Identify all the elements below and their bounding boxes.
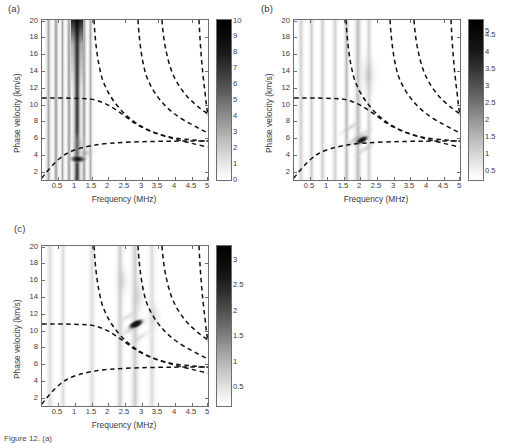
x-tick-label: 2	[105, 181, 109, 190]
panel-a-heatmap	[42, 20, 208, 180]
tick	[327, 177, 328, 180]
tick	[427, 177, 428, 180]
tick	[377, 20, 378, 23]
colorbar-tick-label: 4	[485, 47, 489, 56]
panel-c-heatmap	[42, 246, 208, 406]
tick	[92, 20, 93, 23]
x-tick-label: 2	[105, 407, 109, 416]
tick	[457, 37, 460, 38]
panel-a-colorbar	[216, 19, 232, 181]
y-tick-label: 10	[24, 100, 38, 109]
colorbar-tick-label: 3	[485, 81, 489, 90]
y-tick-label: 4	[24, 376, 38, 385]
colorbar-tick-label: 7	[233, 63, 237, 72]
x-tick-label: 4.5	[438, 181, 449, 190]
tick	[294, 121, 297, 122]
colorbar-tick-label: 2	[233, 306, 237, 315]
panel-c: (c)	[0, 220, 253, 441]
y-tick-label: 8	[24, 116, 38, 125]
tick	[42, 37, 45, 38]
panel-b-y-axis-title: Phase velocity (km/s)	[264, 73, 274, 153]
tick	[294, 71, 297, 72]
tick	[42, 263, 45, 264]
panel-b-label: (b)	[261, 3, 273, 14]
x-tick-label: 2.5	[119, 407, 130, 416]
panel-b-colorbar	[468, 19, 484, 181]
tick	[42, 247, 45, 248]
tick	[192, 177, 193, 180]
x-tick-label: 1	[324, 181, 328, 190]
tick	[205, 364, 208, 365]
tick	[205, 138, 208, 139]
x-tick-label: 1.5	[338, 181, 349, 190]
y-tick-label: 14	[24, 292, 38, 301]
tick	[142, 403, 143, 406]
panel-a-label: (a)	[8, 3, 20, 14]
panel-a: (a)	[0, 0, 253, 220]
colorbar-tick-label: 6	[233, 79, 237, 88]
tick	[58, 403, 59, 406]
colorbar-tick-label: 2.5	[485, 98, 496, 107]
tick	[444, 177, 445, 180]
x-tick-label: 3	[139, 181, 143, 190]
tick	[75, 177, 76, 180]
tick	[459, 177, 460, 180]
colorbar-tick-label: 4	[233, 111, 237, 120]
x-tick-label: 2.5	[119, 181, 130, 190]
panel-a-x-axis-title: Frequency (MHz)	[41, 194, 207, 204]
tick	[205, 71, 208, 72]
x-tick-label: 1.5	[86, 407, 97, 416]
y-tick-label: 6	[276, 133, 290, 142]
tick	[410, 177, 411, 180]
figure-caption: Figure 12. (a)	[4, 434, 52, 443]
tick	[58, 177, 59, 180]
y-tick-label: 6	[24, 133, 38, 142]
tick	[294, 138, 297, 139]
panel-a-plot-area	[41, 19, 209, 181]
tick	[58, 20, 59, 23]
tick	[192, 246, 193, 249]
colorbar-tick-label: 0	[233, 175, 237, 184]
colorbar-tick-label: 3.5	[485, 64, 496, 73]
tick	[192, 403, 193, 406]
x-tick-label: 1	[72, 407, 76, 416]
tick	[205, 398, 208, 399]
tick	[294, 54, 297, 55]
x-tick-label: 0.5	[304, 181, 315, 190]
tick	[42, 398, 45, 399]
x-tick-label: 3	[391, 181, 395, 190]
colorbar-tick-label: 1	[485, 149, 489, 158]
panel-c-x-axis-title: Frequency (MHz)	[41, 420, 207, 430]
tick	[377, 177, 378, 180]
tick	[42, 381, 45, 382]
y-tick-label: 20	[24, 242, 38, 251]
tick	[42, 138, 45, 139]
x-tick-label: 1.5	[86, 181, 97, 190]
tick	[410, 20, 411, 23]
tick	[175, 177, 176, 180]
colorbar-tick-label: 5	[485, 26, 489, 35]
x-tick-label: 3	[139, 407, 143, 416]
colorbar-tick-label: 2	[485, 115, 489, 124]
y-tick-label: 16	[24, 49, 38, 58]
panel-c-y-axis-title: Phase velocity (km/s)	[12, 299, 22, 379]
colorbar-tick-label: 9	[233, 31, 237, 40]
y-tick-label: 18	[24, 32, 38, 41]
tick	[42, 105, 45, 106]
panel-a-y-axis-title: Phase velocity (km/s)	[12, 73, 22, 153]
x-tick-label: 3.5	[404, 181, 415, 190]
x-tick-label: 1	[72, 181, 76, 190]
x-tick-label: 4	[172, 181, 176, 190]
panel-b: (b)	[253, 0, 505, 220]
tick	[294, 172, 297, 173]
tick	[294, 155, 297, 156]
x-tick-label: 5	[205, 407, 209, 416]
y-tick-label: 18	[276, 32, 290, 41]
x-tick-label: 0.5	[52, 181, 63, 190]
tick	[457, 105, 460, 106]
y-tick-label: 12	[24, 309, 38, 318]
tick	[158, 20, 159, 23]
tick	[444, 20, 445, 23]
y-tick-label: 16	[276, 49, 290, 58]
tick	[344, 177, 345, 180]
